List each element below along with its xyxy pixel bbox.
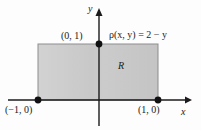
density-function-label: ρ(x, y) = 2 − y <box>109 29 167 40</box>
x-axis-arrowhead <box>185 96 192 103</box>
region-label: R <box>118 60 124 71</box>
x-axis-label: x <box>181 106 185 117</box>
vertex-left-label: (−1, 0) <box>5 104 32 115</box>
vertex-right-point <box>155 97 162 104</box>
math-figure-lamina: (0, 1) ρ(x, y) = 2 − y (−1, 0) (1, 0) R … <box>0 0 201 130</box>
vertex-right-label: (1, 0) <box>138 104 160 115</box>
vertex-top-point <box>96 41 103 48</box>
y-axis-label: y <box>88 3 92 14</box>
y-axis-arrowhead <box>96 8 103 16</box>
region-r-fill <box>38 44 158 100</box>
vertex-top-label: (0, 1) <box>61 30 83 41</box>
vertex-left-point <box>35 97 42 104</box>
